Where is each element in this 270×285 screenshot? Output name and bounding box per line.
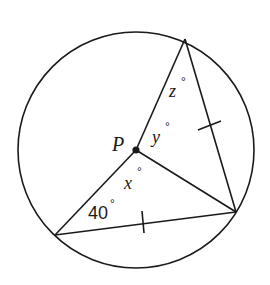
label-angle-40: 40 [88,203,108,223]
label-angle-z: z [168,81,176,101]
degree-symbol-40: ° [110,197,115,211]
chord-right-bottom-left [55,212,236,235]
degree-symbol-y: ° [165,120,170,134]
degree-symbol-z: ° [181,75,186,89]
label-p: P [111,133,124,155]
tick-mark-bottom-chord [142,211,144,233]
geometry-diagram: P z ° y ° x ° 40 ° [0,0,270,285]
radius-p-top [136,39,185,150]
label-angle-y: y [150,127,160,147]
center-point-p [132,146,139,153]
label-angle-x: x [123,173,132,193]
degree-symbol-x: ° [137,165,142,179]
